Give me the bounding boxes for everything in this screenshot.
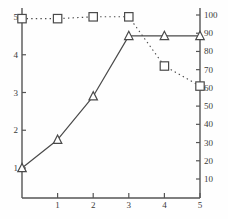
x-axis-tick-label: 4 [162,201,167,210]
square-series-marker [160,62,168,70]
right-axis-tick-label: 60 [204,83,213,92]
right-axis-tick-label: 20 [204,156,213,165]
square-series-line [22,17,200,86]
left-axis-tick-label: 2 [14,126,19,135]
left-axis-tick-label: 4 [14,50,19,59]
right-axis-tick-label: 10 [204,175,213,184]
right-axis-tick-label: 40 [204,120,213,129]
chart-figure: 1234510203040506070809010012345 [0,0,228,219]
right-axis-tick-label: 100 [204,11,218,20]
square-series-marker [18,14,26,22]
right-axis-tick-label: 50 [204,102,213,111]
triangle-series-marker [89,92,97,100]
square-series-marker [196,82,204,90]
right-axis-tick-label: 30 [204,138,213,147]
right-axis-tick-label: 90 [204,29,213,38]
square-series-marker [53,14,61,22]
square-series-marker [125,13,133,21]
left-axis-tick-label: 1 [14,164,19,173]
x-axis-tick-label: 5 [198,201,203,210]
x-axis-tick-label: 3 [127,201,132,210]
plot-canvas [0,0,228,219]
x-axis-tick-label: 2 [91,201,96,210]
left-axis-tick-label: 5 [14,13,19,22]
x-axis-tick-label: 1 [55,201,60,210]
square-series-marker [89,13,97,21]
triangle-series-line [22,36,200,168]
right-axis-tick-label: 70 [204,65,213,74]
right-axis-tick-label: 80 [204,47,213,56]
left-axis-tick-label: 3 [14,88,19,97]
